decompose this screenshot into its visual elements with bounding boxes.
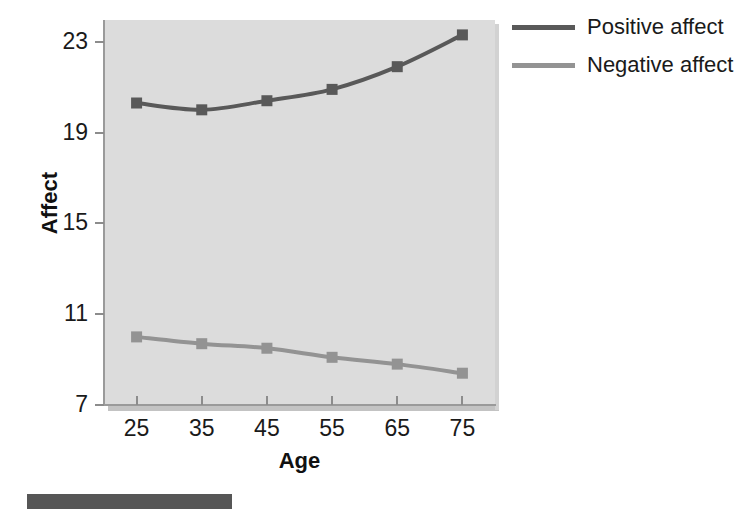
y-tick-label: 19 <box>28 121 88 144</box>
y-tick-mark <box>95 313 104 315</box>
x-tick-mark <box>201 396 203 405</box>
x-tick-label: 75 <box>432 417 492 440</box>
plot-area <box>104 20 495 406</box>
y-tick-mark <box>95 132 104 134</box>
y-axis-title: Affect <box>37 143 63 263</box>
legend-item-positive-affect: Positive affect <box>512 8 737 46</box>
plot-area-shadow-right <box>495 24 499 410</box>
x-tick-label: 25 <box>107 417 167 440</box>
plot-area-shadow-bottom <box>108 406 499 411</box>
x-tick-label: 55 <box>302 417 362 440</box>
x-tick-mark <box>461 396 463 405</box>
y-tick-label: 11 <box>28 302 88 325</box>
x-axis-title: Age <box>104 448 495 474</box>
y-tick-mark <box>95 222 104 224</box>
x-axis-line <box>103 404 496 406</box>
footer-bar <box>27 494 232 509</box>
legend: Positive affect Negative affect <box>512 8 737 84</box>
x-tick-mark <box>266 396 268 405</box>
x-tick-mark <box>136 396 138 405</box>
legend-label-negative-affect: Negative affect <box>587 54 733 76</box>
y-axis-line <box>103 20 105 406</box>
legend-swatch-negative-affect <box>512 63 575 68</box>
y-tick-label: 7 <box>28 393 88 416</box>
x-tick-label: 35 <box>172 417 232 440</box>
legend-label-positive-affect: Positive affect <box>587 16 724 38</box>
x-tick-label: 45 <box>237 417 297 440</box>
y-tick-mark <box>95 404 104 406</box>
y-tick-mark <box>95 41 104 43</box>
y-tick-label: 23 <box>28 30 88 53</box>
x-tick-mark <box>396 396 398 405</box>
legend-item-negative-affect: Negative affect <box>512 46 737 84</box>
legend-swatch-positive-affect <box>512 25 575 30</box>
x-tick-label: 65 <box>367 417 427 440</box>
x-tick-mark <box>331 396 333 405</box>
